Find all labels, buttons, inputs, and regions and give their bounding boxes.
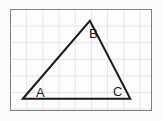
grid-panel: A B C [10, 9, 152, 111]
vertex-label-a: A [36, 86, 45, 99]
vertex-label-c: C [113, 85, 122, 98]
diagram-screenshot: A B C [0, 0, 163, 121]
vertex-label-b: B [89, 27, 98, 40]
triangle-figure [11, 10, 151, 111]
